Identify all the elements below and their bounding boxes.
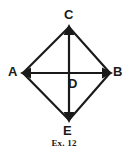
figure-caption: Ex. 12: [0, 138, 128, 149]
vertex-label-c: C: [64, 8, 73, 21]
vertex-label-d: D: [68, 77, 77, 90]
figure-container: C A B D E Ex. 12: [0, 0, 128, 153]
vertex-label-b: B: [113, 65, 122, 78]
vertex-label-a: A: [8, 65, 17, 78]
vertex-label-e: E: [63, 124, 72, 137]
